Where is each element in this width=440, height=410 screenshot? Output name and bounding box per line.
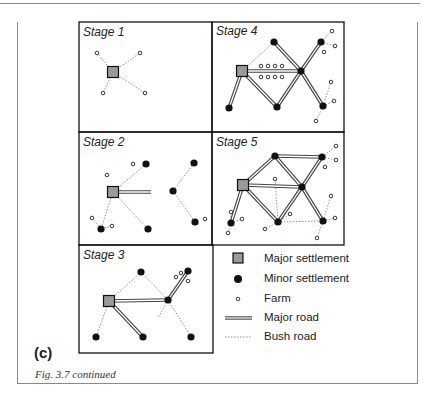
farm-icon — [138, 51, 142, 55]
farm-icon — [330, 29, 334, 33]
farm-icon — [179, 271, 183, 275]
legend-label-major-settlement: Major settlement — [264, 252, 350, 264]
farm-icon — [329, 194, 333, 198]
minor-settlement-icon — [191, 218, 198, 225]
major-road — [274, 42, 301, 71]
major-road — [302, 157, 322, 187]
farm-icon — [186, 279, 190, 283]
legend-label-minor-settlement: Minor settlement — [264, 272, 350, 284]
farm-icon — [110, 224, 114, 228]
farm-icon — [334, 144, 338, 148]
panel-title-stage-4: Stage 4 — [216, 24, 258, 38]
bush-road — [323, 196, 331, 221]
minor-settlement-icon — [139, 333, 146, 340]
major-road-center — [302, 187, 323, 221]
minor-settlement-icon — [270, 38, 277, 45]
network-layer — [90, 29, 338, 340]
bush-road — [168, 300, 191, 337]
minor-settlement-icon — [318, 153, 325, 160]
panel-stage-2-network — [90, 159, 207, 232]
legend-farm-icon — [236, 297, 240, 301]
minor-settlement-icon — [273, 103, 280, 110]
farm-icon — [105, 173, 109, 177]
minor-settlement-icon — [169, 187, 176, 194]
farm-icon — [131, 162, 135, 166]
farm-icon — [90, 216, 94, 220]
bush-road — [323, 82, 331, 106]
major-road — [278, 187, 302, 222]
major-road-center — [274, 42, 301, 71]
major-road — [301, 42, 321, 71]
major-road — [302, 187, 323, 221]
minor-settlement-icon — [137, 268, 144, 275]
farm-icon — [280, 64, 284, 68]
bush-road — [278, 221, 323, 222]
farm-icon — [259, 75, 263, 79]
farm-icon — [259, 64, 263, 68]
farm-icon — [240, 217, 244, 221]
farm-icon — [143, 91, 147, 95]
farm-icon — [333, 44, 337, 48]
farm-icon — [334, 158, 338, 162]
major-settlement-icon — [108, 67, 119, 78]
minor-settlement-icon — [187, 333, 194, 340]
legend-minor-settlement-icon — [234, 275, 242, 283]
panel-stage-4-border — [212, 22, 344, 132]
bush-road — [173, 191, 195, 222]
farm-icon — [314, 119, 318, 123]
panel-title-stage-3: Stage 3 — [83, 248, 125, 262]
bush-road — [173, 163, 194, 191]
minor-settlement-icon — [274, 218, 281, 225]
farm-icon — [323, 165, 327, 169]
major-settlement-icon — [237, 66, 248, 77]
minor-settlement-icon — [225, 104, 232, 111]
major-road-center — [275, 156, 302, 187]
panel-stage-4-network — [225, 29, 336, 123]
minor-settlement-icon — [142, 160, 149, 167]
farm-icon — [203, 217, 207, 221]
major-settlement-icon — [108, 187, 119, 198]
farm-icon — [329, 80, 333, 84]
figure-part-label: (c) — [34, 344, 52, 361]
farm-icon — [280, 75, 284, 79]
minor-settlement-icon — [97, 225, 104, 232]
major-road-center — [301, 42, 321, 71]
major-settlement-icon — [104, 296, 115, 307]
major-road — [243, 185, 302, 187]
major-road — [168, 271, 188, 300]
panel-stage-3-network — [92, 267, 194, 340]
major-road — [109, 300, 168, 301]
settlement-stages-diagram: Stage 1 Stage 2 Stage 3 Stage 4 Stage 5 … — [0, 0, 440, 410]
major-road — [275, 156, 322, 157]
farm-icon — [229, 210, 233, 214]
farm-icon — [273, 75, 277, 79]
major-road-center — [302, 157, 322, 187]
farm-icon — [273, 64, 277, 68]
panel-stage-5-network — [226, 144, 338, 240]
legend: Major settlement Minor settlement Farm M… — [225, 252, 350, 342]
farm-icon — [101, 91, 105, 95]
major-road-center — [301, 71, 323, 106]
major-road-center — [278, 187, 302, 222]
minor-settlement-icon — [298, 183, 305, 190]
major-road — [275, 156, 302, 187]
minor-settlement-icon — [271, 152, 278, 159]
legend-major-settlement-icon — [233, 253, 243, 263]
minor-settlement-icon — [227, 219, 234, 226]
farm-icon — [332, 99, 336, 103]
minor-settlement-icon — [164, 296, 171, 303]
figure-caption: Fig. 3.7 continued — [35, 368, 116, 380]
legend-label-farm: Farm — [264, 292, 291, 304]
major-road — [301, 71, 323, 106]
panel-title-stage-5: Stage 5 — [216, 135, 258, 149]
panel-title-stage-2: Stage 2 — [83, 135, 125, 149]
minor-settlement-icon — [144, 225, 151, 232]
major-settlement-icon — [238, 180, 249, 191]
minor-settlement-icon — [319, 217, 326, 224]
farm-icon — [226, 231, 230, 235]
minor-settlement-icon — [190, 159, 197, 166]
farm-icon — [174, 275, 178, 279]
farm-icon — [266, 75, 270, 79]
farm-icon — [322, 50, 326, 54]
legend-label-major-road: Major road — [264, 311, 319, 323]
